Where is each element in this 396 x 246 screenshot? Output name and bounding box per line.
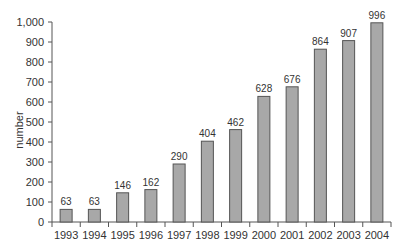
- bar-value-label: 404: [199, 128, 216, 139]
- x-tick-label: 1997: [167, 229, 191, 241]
- y-tick-label: 100: [26, 196, 44, 208]
- bar-value-label: 290: [171, 151, 188, 162]
- bar-1995: [117, 193, 129, 222]
- bar-value-label: 63: [61, 196, 73, 207]
- chart-canvas: 01002003004005006007008009001,0006319936…: [0, 0, 396, 246]
- bar-1997: [173, 164, 185, 222]
- x-tick-label: 1994: [82, 229, 106, 241]
- bar-chart: 01002003004005006007008009001,0006319936…: [0, 0, 396, 246]
- x-tick-label: 2003: [336, 229, 360, 241]
- bar-2001: [286, 87, 298, 222]
- bar-value-label: 63: [89, 196, 101, 207]
- bar-value-label: 146: [114, 180, 131, 191]
- y-tick-label: 800: [26, 56, 44, 68]
- y-tick-label: 900: [26, 36, 44, 48]
- bar-1996: [145, 190, 157, 222]
- bar-value-label: 864: [312, 36, 329, 47]
- bar-2000: [258, 96, 270, 222]
- y-tick-label: 500: [26, 116, 44, 128]
- y-tick-label: 600: [26, 96, 44, 108]
- x-tick-label: 1996: [139, 229, 163, 241]
- x-tick-label: 2001: [280, 229, 304, 241]
- y-tick-label: 700: [26, 76, 44, 88]
- x-tick-label: 1998: [195, 229, 219, 241]
- bar-value-label: 628: [256, 83, 273, 94]
- bar-value-label: 996: [369, 10, 386, 21]
- bar-2002: [314, 49, 326, 222]
- y-tick-label: 200: [26, 176, 44, 188]
- x-tick-label: 1995: [110, 229, 134, 241]
- y-tick-label: 300: [26, 156, 44, 168]
- bar-1999: [230, 130, 242, 222]
- y-tick-label: 1,000: [16, 16, 44, 28]
- x-tick-label: 2004: [365, 229, 389, 241]
- bar-1998: [201, 141, 213, 222]
- bar-1993: [60, 209, 72, 222]
- y-axis-label: number: [13, 105, 25, 155]
- bar-1994: [88, 209, 100, 222]
- x-tick-label: 1993: [54, 229, 78, 241]
- x-tick-label: 2002: [308, 229, 332, 241]
- bar-value-label: 162: [143, 177, 160, 188]
- bar-value-label: 676: [284, 74, 301, 85]
- y-tick-label: 0: [38, 216, 44, 228]
- bar-2004: [371, 23, 383, 222]
- bar-2003: [343, 41, 355, 222]
- x-tick-label: 2000: [252, 229, 276, 241]
- bar-value-label: 462: [227, 117, 244, 128]
- x-tick-label: 1999: [223, 229, 247, 241]
- bar-value-label: 907: [340, 28, 357, 39]
- y-tick-label: 400: [26, 136, 44, 148]
